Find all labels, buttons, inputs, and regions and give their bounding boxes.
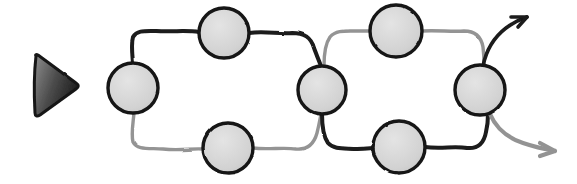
start-marker[interactable] <box>34 55 78 116</box>
edge-entry-to-loop1-top <box>132 31 199 63</box>
node-middle[interactable] <box>298 66 346 114</box>
node-entry[interactable] <box>108 63 158 113</box>
node-loop1-top[interactable] <box>199 8 249 58</box>
node-loop2-bottom[interactable] <box>373 121 425 173</box>
node-exit[interactable] <box>455 65 505 115</box>
edge-entry-to-loop1-bottom <box>132 113 203 150</box>
edge-middle-to-loop2-bottom <box>322 114 373 149</box>
start-triangle-icon[interactable] <box>34 55 78 116</box>
edge-loop2-bottom-to-exit <box>425 114 488 148</box>
sketch-canvas <box>0 0 577 184</box>
node-loop2-top[interactable] <box>370 5 422 57</box>
edge-loop1-top-to-middle <box>249 32 321 66</box>
edge-loop1-bottom-to-middle <box>253 114 321 149</box>
edge-middle-to-loop2-top <box>324 31 370 66</box>
node-loop1-bottom[interactable] <box>203 123 253 173</box>
diagram-svg <box>0 0 577 184</box>
edge-loop2-top-to-exit <box>422 31 484 65</box>
